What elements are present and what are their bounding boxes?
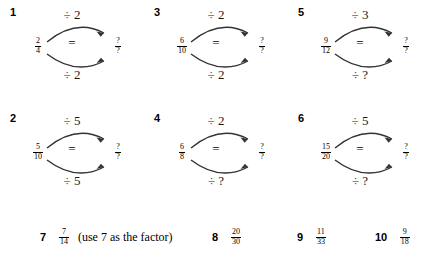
denominator: 10 [33,152,43,162]
answer-fraction[interactable]: ? ? [252,36,272,55]
answer-denominator[interactable]: ? [403,46,409,56]
answer-fraction[interactable]: ? ? [396,142,416,161]
left-fraction: 6 10 [172,36,192,55]
bottom-operation-label: ÷ ? [332,68,388,82]
denominator: 14 [59,237,69,247]
answer-numerator[interactable]: ? [115,37,121,46]
problem-fraction: 9 18 [400,228,410,246]
numerator: 11 [316,228,326,237]
denominator: 20 [321,152,331,162]
list-problems-row: 7 7 14 (use 7 as the factor) 8 20 30 9 1… [0,225,432,255]
equals-sign: = [348,142,372,156]
factor-hint: (use 7 as the factor) [78,230,173,244]
equals-sign: = [60,36,84,50]
answer-numerator[interactable]: ? [403,143,409,152]
answer-fraction[interactable]: ? ? [396,36,416,55]
denominator: 18 [400,237,410,247]
problem-number: 10 [375,231,387,243]
denominator: 10 [177,46,187,56]
answer-numerator[interactable]: ? [259,37,265,46]
problem-6: 6 ÷ 5 15 20 = ? ? ÷ ? [288,106,432,198]
numerator: 15 [321,143,331,152]
problem-8: 8 20 30 [212,225,241,247]
equals-sign: = [204,142,228,156]
problem-fraction: 11 33 [316,228,326,246]
numerator: 6 [177,37,187,46]
problem-fraction: 7 14 [59,228,69,246]
denominator: 12 [321,46,331,56]
problem-10: 10 9 18 [375,225,410,247]
left-fraction: 6 8 [172,142,192,161]
numerator: 2 [35,37,41,46]
numerator: 20 [231,228,241,237]
problem-9: 9 11 33 [297,225,326,247]
numerator: 7 [59,228,69,237]
diagram-problems-grid: 1 ÷ 2 2 4 = ? ? ÷ 2 3 ÷ 2 [0,0,432,212]
answer-numerator[interactable]: ? [259,143,265,152]
answer-numerator[interactable]: ? [115,143,121,152]
answer-denominator[interactable]: ? [115,46,121,56]
numerator: 5 [33,143,43,152]
problem-4: 4 ÷ 2 6 8 = ? ? ÷ ? [144,106,288,198]
denominator: 8 [179,152,185,162]
problem-2: 2 ÷ 5 5 10 = ? ? ÷ 5 [0,106,144,198]
answer-fraction[interactable]: ? ? [108,142,128,161]
bottom-operation-label: ÷ 2 [44,68,100,82]
equals-sign: = [204,36,228,50]
answer-fraction[interactable]: ? ? [108,36,128,55]
bottom-operation-label: ÷ 2 [188,68,244,82]
problem-number: 8 [212,231,218,243]
problem-1: 1 ÷ 2 2 4 = ? ? ÷ 2 [0,0,144,92]
problem-5: 5 ÷ 3 9 12 = ? ? ÷ ? [288,0,432,92]
bottom-operation-label: ÷ ? [332,174,388,188]
answer-denominator[interactable]: ? [115,152,121,162]
answer-fraction[interactable]: ? ? [252,142,272,161]
problem-number: 9 [297,231,303,243]
left-fraction: 9 12 [316,36,336,55]
problem-number: 7 [40,231,46,243]
answer-denominator[interactable]: ? [259,46,265,56]
answer-denominator[interactable]: ? [403,152,409,162]
denominator: 33 [316,237,326,247]
numerator: 9 [400,228,410,237]
problem-fraction: 20 30 [231,228,241,246]
equals-sign: = [60,142,84,156]
left-fraction: 15 20 [316,142,336,161]
problem-3: 3 ÷ 2 6 10 = ? ? ÷ 2 [144,0,288,92]
answer-numerator[interactable]: ? [403,37,409,46]
left-fraction: 5 10 [28,142,48,161]
bottom-operation-label: ÷ 5 [44,174,100,188]
numerator: 6 [179,143,185,152]
equals-sign: = [348,36,372,50]
problem-7: 7 7 14 (use 7 as the factor) [40,225,173,247]
answer-denominator[interactable]: ? [259,152,265,162]
denominator: 30 [231,237,241,247]
numerator: 9 [321,37,331,46]
bottom-operation-label: ÷ ? [188,174,244,188]
denominator: 4 [35,46,41,56]
left-fraction: 2 4 [28,36,48,55]
